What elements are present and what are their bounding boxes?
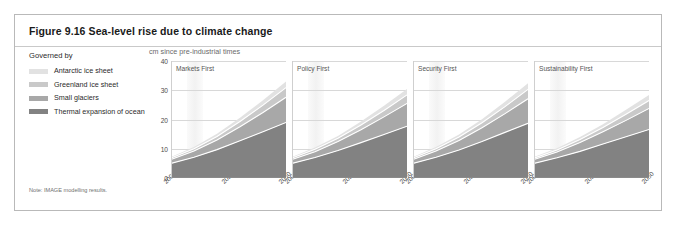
figure-title: Figure 9.16 Sea-level rise due to climat… (29, 25, 272, 37)
y-axis-tick-label: 10 (161, 145, 168, 152)
legend-swatch-icon (29, 82, 48, 87)
plot-region: 010203040 Markets FirstPolicy FirstSecur… (149, 61, 649, 178)
y-axis-tick-label: 20 (161, 116, 168, 123)
x-tick-group: 200020252050 (171, 178, 286, 208)
figure-note: Note: IMAGE modelling results. (29, 187, 107, 193)
panel-title: Security First (418, 65, 456, 72)
stacked-area-plot (292, 61, 407, 178)
x-tick-group: 200020252050 (413, 178, 528, 208)
chart-panel: Policy First (292, 61, 407, 178)
x-tick-group: 200020252050 (534, 178, 649, 208)
panel-title: Policy First (297, 65, 329, 72)
y-axis-unit-label: cm since pre-industrial times (149, 47, 240, 56)
legend-item-label: Thermal expansion of ocean (54, 108, 145, 116)
y-axis-tick-label: 30 (161, 87, 168, 94)
legend-items: Antarctic ice sheetGreenland ice sheetSm… (29, 67, 157, 116)
legend-item: Antarctic ice sheet (29, 67, 157, 75)
legend-swatch-icon (29, 69, 48, 74)
legend-item-label: Small glaciers (54, 94, 99, 102)
chart-panel: Security First (413, 61, 528, 178)
legend-item-label: Greenland ice sheet (54, 81, 118, 89)
panel-title: Markets First (176, 65, 214, 72)
figure-card: Figure 9.16 Sea-level rise due to climat… (14, 14, 662, 211)
stacked-area-plot (413, 61, 528, 178)
y-axis-tick-label: 40 (161, 58, 168, 65)
chart-panel: Markets First (171, 61, 286, 178)
stacked-area-plot (534, 61, 649, 178)
title-divider (15, 46, 661, 47)
legend: Governed by Antarctic ice sheetGreenland… (29, 51, 157, 121)
stacked-area-plot (171, 61, 286, 178)
chart-panel: Sustainability First (534, 61, 649, 178)
legend-swatch-icon (29, 96, 48, 101)
x-tick-group: 200020252050 (292, 178, 407, 208)
legend-item-label: Antarctic ice sheet (54, 67, 113, 75)
panel-title: Sustainability First (539, 65, 593, 72)
panel-group: Markets FirstPolicy FirstSecurity FirstS… (171, 61, 649, 178)
legend-heading: Governed by (29, 51, 157, 60)
legend-item: Thermal expansion of ocean (29, 108, 157, 116)
y-axis: 010203040 (149, 61, 171, 178)
legend-item: Small glaciers (29, 94, 157, 102)
legend-item: Greenland ice sheet (29, 81, 157, 89)
legend-swatch-icon (29, 109, 48, 114)
x-axis: 2000202520502000202520502000202520502000… (171, 178, 649, 208)
